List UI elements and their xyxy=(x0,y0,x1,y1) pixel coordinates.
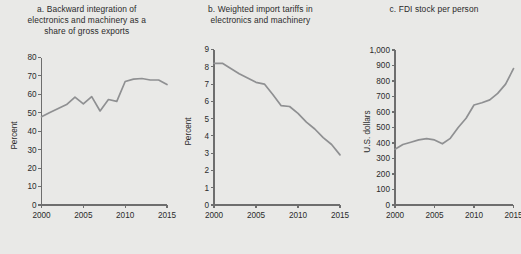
y-tick-label: 500 xyxy=(377,123,391,132)
y-tick-label: 1,000 xyxy=(370,46,391,55)
x-tick-label: 2005 xyxy=(74,211,93,220)
y-tick-label: 20 xyxy=(27,164,37,173)
x-tick-label: 2005 xyxy=(426,211,445,220)
panel-a: a. Backward integration of electronics a… xyxy=(0,0,174,254)
x-tick-label: 2015 xyxy=(505,211,521,220)
x-tick-label: 2010 xyxy=(288,211,307,220)
y-tick-label: 4 xyxy=(204,132,209,141)
panel-b-plot: Percent 01234567892000200520102015 xyxy=(174,0,348,254)
y-tick-label: 50 xyxy=(27,109,37,118)
panel-b-svg: 01234567892000200520102015 xyxy=(174,0,348,254)
x-tick-label: 2010 xyxy=(116,211,135,220)
y-tick-label: 700 xyxy=(377,92,391,101)
y-tick-label: 30 xyxy=(27,146,37,155)
x-tick-label: 2000 xyxy=(386,211,405,220)
y-tick-label: 3 xyxy=(204,149,209,158)
data-series-line xyxy=(214,63,340,155)
y-tick-label: 5 xyxy=(204,115,209,124)
y-tick-label: 80 xyxy=(27,53,37,62)
x-tick-label: 2010 xyxy=(465,211,484,220)
y-tick-label: 100 xyxy=(377,185,391,194)
panel-c-svg: 01002003004005006007008009001,0002000200… xyxy=(347,0,521,254)
y-tick-label: 0 xyxy=(386,201,391,210)
y-tick-label: 6 xyxy=(204,97,209,106)
y-tick-label: 1 xyxy=(204,184,209,193)
y-tick-label: 2 xyxy=(204,166,209,175)
y-tick-label: 8 xyxy=(204,63,209,72)
x-tick-label: 2005 xyxy=(246,211,265,220)
y-tick-label: 0 xyxy=(32,201,37,210)
panel-c-plot: U.S. dollars 010020030040050060070080090… xyxy=(347,0,521,254)
y-tick-label: 7 xyxy=(204,80,209,89)
figure-three-panel-chart: a. Backward integration of electronics a… xyxy=(0,0,521,254)
data-series-line xyxy=(395,69,513,150)
y-tick-label: 400 xyxy=(377,139,391,148)
data-series-line xyxy=(41,79,166,117)
y-tick-label: 10 xyxy=(27,182,37,191)
y-tick-label: 0 xyxy=(204,201,209,210)
y-tick-label: 800 xyxy=(377,77,391,86)
x-tick-label: 2000 xyxy=(32,211,51,220)
panel-a-svg: 010203040506070802000200520102015 xyxy=(0,0,174,254)
y-tick-label: 300 xyxy=(377,154,391,163)
y-tick-label: 40 xyxy=(27,127,37,136)
y-tick-label: 200 xyxy=(377,170,391,179)
x-tick-label: 2000 xyxy=(204,211,223,220)
y-tick-label: 600 xyxy=(377,108,391,117)
y-tick-label: 60 xyxy=(27,90,37,99)
panel-a-plot: Percent 01020304050607080200020052010201… xyxy=(0,0,174,254)
panel-b: b. Weighted import tariffs in electronic… xyxy=(174,0,348,254)
y-tick-label: 9 xyxy=(204,45,209,54)
panel-c: c. FDI stock per person U.S. dollars 010… xyxy=(347,0,521,254)
y-tick-label: 70 xyxy=(27,72,37,81)
y-tick-label: 900 xyxy=(377,61,391,70)
